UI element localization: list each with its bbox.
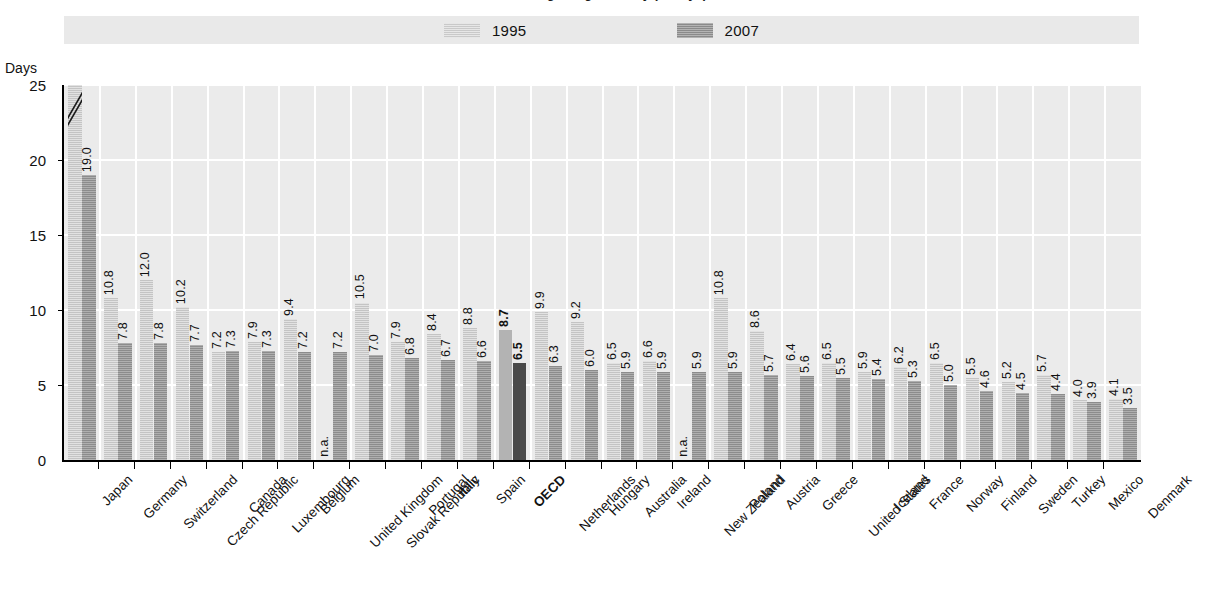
bar-1995[interactable] xyxy=(1002,382,1016,460)
legend-item-1995[interactable]: 1995 xyxy=(444,22,527,39)
bar-2007[interactable] xyxy=(190,345,204,461)
bar-group[interactable]: 6.55.0 xyxy=(926,85,962,460)
axis-break-icon xyxy=(68,87,82,133)
bar-1995[interactable] xyxy=(68,85,82,460)
bar-group[interactable]: 4.13.5 xyxy=(1105,85,1141,460)
bar-group[interactable]: n.a.5.9 xyxy=(674,85,710,460)
bar-2007[interactable] xyxy=(1051,394,1065,460)
bar-group[interactable]: n.a.7.2 xyxy=(315,85,351,460)
bar-2007[interactable] xyxy=(477,361,491,460)
y-axis-title: Days xyxy=(5,60,37,76)
plot-area: 33.219.010.87.812.07.810.27.77.27.37.97.… xyxy=(62,85,1141,462)
bar-2007[interactable] xyxy=(82,175,96,460)
bar-group[interactable]: 10.57.0 xyxy=(351,85,387,460)
bar-2007[interactable] xyxy=(585,370,599,460)
bar-1995[interactable] xyxy=(248,342,262,461)
bar-1995[interactable] xyxy=(643,361,657,460)
bar-2007[interactable] xyxy=(657,372,671,461)
bar-2007[interactable] xyxy=(549,366,563,461)
bar-value-label: 9.9 xyxy=(534,291,548,309)
bar-2007[interactable] xyxy=(621,372,635,461)
bar-value-label: 7.2 xyxy=(211,331,225,349)
bar-value-label: 7.3 xyxy=(261,330,275,348)
bar-group[interactable]: 33.219.0 xyxy=(64,85,100,460)
bar-2007[interactable] xyxy=(836,378,850,461)
bar-value-label: 6.0 xyxy=(584,349,598,367)
bar-1995[interactable] xyxy=(391,342,405,461)
bar-group[interactable]: 9.26.0 xyxy=(567,85,603,460)
bar-1995[interactable] xyxy=(1073,400,1087,460)
bar-group[interactable]: 10.27.7 xyxy=(172,85,208,460)
bar-group[interactable]: 12.07.8 xyxy=(136,85,172,460)
bar-1995[interactable] xyxy=(966,378,980,461)
bar-2007[interactable] xyxy=(872,379,886,460)
bar-2007[interactable] xyxy=(226,351,240,461)
bar-value-label: 10.2 xyxy=(175,279,189,304)
bar-value-label: 6.6 xyxy=(476,340,490,358)
bar-2007[interactable] xyxy=(441,360,455,461)
bar-2007[interactable] xyxy=(298,352,312,460)
bar-group[interactable]: 7.97.3 xyxy=(244,85,280,460)
bar-group[interactable]: 5.54.6 xyxy=(962,85,998,460)
bar-2007[interactable] xyxy=(980,391,994,460)
bar-value-label-na: n.a. xyxy=(318,436,332,457)
bar-1995[interactable] xyxy=(858,372,872,461)
bar-2007[interactable] xyxy=(1016,393,1030,461)
bar-1995[interactable] xyxy=(140,280,154,460)
bar-1995[interactable] xyxy=(571,322,585,460)
bar-value-label: 4.1 xyxy=(1108,378,1122,396)
bar-group[interactable]: 8.76.5 xyxy=(495,85,531,460)
bar-group[interactable]: 8.65.7 xyxy=(746,85,782,460)
bar-2007[interactable] xyxy=(513,363,527,461)
bar-2007[interactable] xyxy=(908,381,922,461)
bar-value-label: 4.4 xyxy=(1050,373,1064,391)
bar-group[interactable]: 10.87.8 xyxy=(100,85,136,460)
bar-1995[interactable] xyxy=(355,303,369,461)
bar-2007[interactable] xyxy=(692,372,706,461)
bar-group[interactable]: 5.24.5 xyxy=(997,85,1033,460)
bar-group[interactable]: 9.96.3 xyxy=(531,85,567,460)
bar-1995[interactable] xyxy=(1109,399,1123,461)
bar-value-label: 12.0 xyxy=(139,252,153,277)
bar-group[interactable]: 5.74.4 xyxy=(1033,85,1069,460)
bar-group[interactable]: 6.55.5 xyxy=(818,85,854,460)
bar-2007[interactable] xyxy=(118,343,132,460)
bar-1995[interactable] xyxy=(750,331,764,460)
bar-value-label: 5.9 xyxy=(620,351,634,369)
bar-2007[interactable] xyxy=(154,343,168,460)
bar-1995[interactable] xyxy=(535,312,549,461)
bar-group[interactable]: 6.65.9 xyxy=(638,85,674,460)
bar-value-label: 7.0 xyxy=(368,334,382,352)
bar-group[interactable]: 6.25.3 xyxy=(890,85,926,460)
x-axis-labels: JapanGermanySwitzerlandCzech RepublicCan… xyxy=(0,466,1218,592)
x-axis-category-label: Norway xyxy=(963,472,1006,515)
bar-group[interactable]: 8.46.7 xyxy=(423,85,459,460)
bar-group[interactable]: 4.03.9 xyxy=(1069,85,1105,460)
bar-1995[interactable] xyxy=(212,352,226,460)
bar-2007[interactable] xyxy=(944,385,958,460)
bar-group[interactable]: 7.96.8 xyxy=(387,85,423,460)
bar-group[interactable]: 9.47.2 xyxy=(279,85,315,460)
bar-1995[interactable] xyxy=(607,363,621,461)
bar-group[interactable]: 6.45.6 xyxy=(782,85,818,460)
bar-2007[interactable] xyxy=(728,372,742,461)
bar-group[interactable]: 8.86.6 xyxy=(459,85,495,460)
bar-value-label: 7.8 xyxy=(153,322,167,340)
bar-group[interactable]: 5.95.4 xyxy=(854,85,890,460)
bar-1995[interactable] xyxy=(786,364,800,460)
legend-item-2007[interactable]: 2007 xyxy=(677,22,760,39)
bar-2007[interactable] xyxy=(800,376,814,460)
bar-2007[interactable] xyxy=(262,351,276,461)
bar-1995[interactable] xyxy=(822,363,836,461)
bar-2007[interactable] xyxy=(333,352,347,460)
bar-2007[interactable] xyxy=(1123,408,1137,461)
bar-2007[interactable] xyxy=(764,375,778,461)
bar-group[interactable]: 7.27.3 xyxy=(208,85,244,460)
bar-group[interactable]: 6.55.9 xyxy=(603,85,639,460)
bar-group[interactable]: 10.85.9 xyxy=(710,85,746,460)
bar-2007[interactable] xyxy=(405,358,419,460)
bar-2007[interactable] xyxy=(369,355,383,460)
bar-2007[interactable] xyxy=(1087,402,1101,461)
bar-1995[interactable] xyxy=(894,367,908,460)
bar-1995[interactable] xyxy=(714,298,728,460)
